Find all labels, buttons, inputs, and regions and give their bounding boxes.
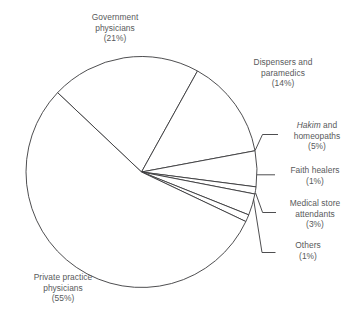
label-line-1-rest: and: [321, 120, 338, 130]
label-line-2: attendants: [277, 209, 353, 220]
label-percent: (3%): [277, 219, 353, 230]
leader-line-others: [254, 199, 276, 252]
label-percent: (55%): [2, 293, 124, 304]
label-line-1: Dispensers and: [216, 57, 350, 68]
label-percent: (1%): [277, 176, 353, 187]
label-percent: (14%): [216, 78, 350, 89]
label-line-1: Faith healers: [277, 165, 353, 176]
label-line-2: homeopaths: [281, 131, 353, 142]
pie-label-hakim-and-homeopaths: Hakim and homeopaths (5%): [281, 120, 353, 152]
label-line-2: paramedics: [216, 68, 350, 79]
label-line-2: physicians: [2, 283, 124, 294]
label-percent: (21%): [51, 33, 179, 44]
pie-label-government-physicians: Government physicians (21%): [51, 12, 179, 44]
pie-chart: Government physicians (21%) Dispensers a…: [0, 0, 353, 324]
label-percent: (5%): [281, 141, 353, 152]
label-line-1: Others: [277, 240, 339, 251]
label-line-1: Private practice: [2, 272, 124, 283]
pie-label-medical-store-attendants: Medical store attendants (3%): [277, 198, 353, 230]
leader-line-medstore: [256, 193, 276, 213]
label-line-1: Government: [51, 12, 179, 23]
label-line-1: Hakim and: [281, 120, 353, 131]
pie-label-faith-healers: Faith healers (1%): [277, 165, 353, 186]
pie-slices-group: [26, 56, 257, 287]
leader-line-hakim: [255, 135, 278, 151]
pie-label-others: Others (1%): [277, 240, 339, 261]
label-line-2: physicians: [51, 23, 179, 34]
leader-lines-group: [254, 135, 278, 253]
pie-label-dispensers-and-paramedics: Dispensers and paramedics (14%): [216, 57, 350, 89]
label-line-1: Medical store: [277, 198, 353, 209]
pie-label-private-practice-physicians: Private practice physicians (55%): [2, 272, 124, 304]
label-percent: (1%): [277, 251, 339, 262]
label-term-italic: Hakim: [297, 120, 321, 130]
